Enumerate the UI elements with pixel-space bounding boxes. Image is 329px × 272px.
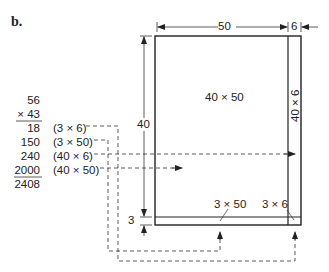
region-40x6: 40 × 6 <box>289 82 301 122</box>
dim-width-6: 6 <box>291 20 297 32</box>
area-model-diagram <box>0 0 329 272</box>
region-3x6: 3 × 6 <box>262 198 288 210</box>
region-3x50: 3 × 50 <box>214 198 246 210</box>
dim-height-3: 3 <box>128 214 134 226</box>
dim-height-40: 40 <box>137 118 150 130</box>
dim-width-50: 50 <box>218 20 231 32</box>
region-40x50: 40 × 50 <box>205 91 244 103</box>
